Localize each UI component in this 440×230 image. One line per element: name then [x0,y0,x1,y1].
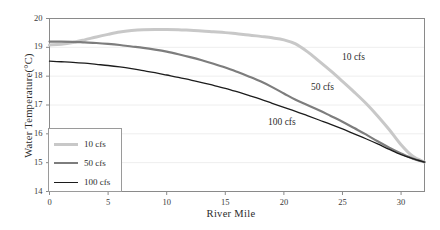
x-tick-label: 5 [96,197,120,207]
x-tick-label: 20 [272,197,296,207]
y-tick-label: 17 [19,99,43,109]
legend-item: 100 cfs [54,175,110,189]
x-tick-label: 0 [38,197,62,207]
legend-label: 10 cfs [84,139,106,149]
legend-swatch-100-cfs [54,182,78,183]
legend-label: 100 cfs [84,177,110,187]
x-tick-label: 25 [330,197,354,207]
y-tick-label: 14 [19,186,43,196]
x-axis-title: River Mile [0,208,440,219]
y-tick-label: 18 [19,70,43,80]
y-tick-label: 20 [19,13,43,23]
y-tick-label: 19 [19,41,43,51]
legend-label: 50 cfs [84,158,106,168]
legend-item: 50 cfs [54,156,106,170]
y-tick-label: 15 [19,157,43,167]
legend-item: 10 cfs [54,137,106,151]
chart-figure: Water Temperature(°C) River Mile 1415161… [0,0,440,230]
plot-canvas [0,0,440,230]
legend-swatch-50-cfs [54,162,78,164]
x-tick-label: 15 [213,197,237,207]
series-annotation: 50 cfs [311,82,334,92]
series-annotation: 10 cfs [342,52,365,62]
y-tick-label: 16 [19,128,43,138]
x-tick-label: 10 [155,197,179,207]
series-annotation: 100 cfs [268,117,296,127]
chart-legend: 10 cfs50 cfs100 cfs [48,128,122,192]
x-tick-label: 30 [389,197,413,207]
legend-swatch-10-cfs [54,143,78,146]
